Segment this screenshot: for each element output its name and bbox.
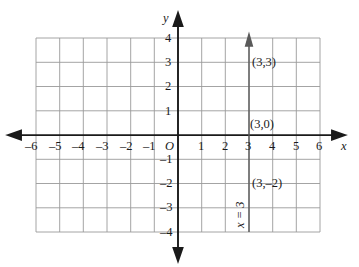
point-label-3-neg2: (3,–2) — [252, 177, 282, 190]
x-tick-label-6: 6 — [316, 140, 322, 153]
x-tick-label-2: 2 — [222, 140, 228, 153]
y-axis-line — [174, 13, 183, 261]
y-tick-label-4: 4 — [165, 32, 171, 45]
y-tick-label-1: 1 — [165, 105, 171, 118]
y-axis-bottom-arrowhead — [174, 248, 183, 261]
y-tick-label-2: 2 — [165, 80, 171, 93]
coordinate-plane-figure: –6 –5 –4 –3 –2 –1 O 1 2 3 4 5 6 x 4 3 2 … — [0, 0, 359, 267]
x-tick-label-neg3: –3 — [96, 140, 109, 153]
y-tick-label-neg2: –2 — [160, 177, 173, 190]
point-label-3-3: (3,3) — [252, 56, 276, 69]
x-tick-label-3: 3 — [245, 140, 251, 153]
y-tick-label-neg1: –1 — [160, 153, 173, 166]
y-tick-label-neg4: –4 — [160, 226, 173, 239]
x-tick-label-neg5: –5 — [49, 140, 62, 153]
x-axis-left-arrowhead — [8, 131, 21, 140]
line-equation-label: x = 3 — [234, 202, 247, 228]
y-tick-label-neg3: –3 — [160, 201, 173, 214]
point-label-3-0: (3,0) — [250, 118, 274, 131]
origin-label: O — [165, 140, 174, 153]
x-tick-label-4: 4 — [269, 140, 275, 153]
plot-canvas — [0, 0, 359, 267]
y-axis-top-arrowhead — [174, 13, 183, 26]
y-tick-label-3: 3 — [165, 56, 171, 69]
x-tick-label-5: 5 — [293, 140, 299, 153]
x-tick-label-neg6: –6 — [25, 140, 38, 153]
x-tick-label-neg2: –2 — [120, 140, 133, 153]
plotted-line-arrowhead — [246, 34, 253, 46]
x-tick-label-1: 1 — [198, 140, 204, 153]
x-axis-label: x — [341, 140, 347, 153]
x-tick-label-neg1: –1 — [143, 140, 156, 153]
y-axis-label: y — [163, 12, 169, 25]
x-tick-label-neg4: –4 — [72, 140, 85, 153]
